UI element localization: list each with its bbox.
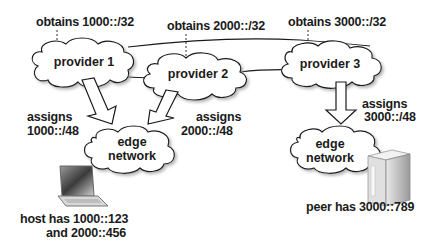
host-address-label-2: and 2000::456 <box>46 226 126 240</box>
edge-network-2-label: edge network <box>294 137 366 165</box>
edge-network-2-line2: network <box>294 151 366 165</box>
multihoming-diagram: obtains 1000::/32 obtains 2000::/32 obta… <box>0 0 442 244</box>
peer-address-label: peer has 3000::789 <box>306 200 414 214</box>
provider-3-label: provider 3 <box>292 57 368 71</box>
provider-1-assigns-prefix: 1000::/48 <box>27 124 79 138</box>
provider-2-assigns-prefix: 2000::/48 <box>181 124 233 138</box>
provider-1-obtains-label: obtains 1000::/32 <box>36 15 134 29</box>
provider-2-obtains-label: obtains 2000::/32 <box>167 19 265 33</box>
edge-network-2-line1: edge <box>294 137 366 151</box>
provider-1-label: provider 1 <box>46 55 122 69</box>
provider-3-assigns-prefix: 3000::/48 <box>364 110 416 124</box>
edge-network-1-line1: edge <box>96 135 168 149</box>
provider-3-assigns-label: assigns <box>362 97 407 111</box>
provider-3-obtains-label: obtains 3000::/32 <box>288 15 386 29</box>
provider-2-assigns-label: assigns <box>196 110 241 124</box>
server-icon <box>368 150 410 206</box>
host-address-label: host has 1000::123 <box>20 212 128 226</box>
laptop-icon <box>58 166 108 206</box>
provider-2-label: provider 2 <box>158 67 238 81</box>
edge-network-1-label: edge network <box>96 135 168 163</box>
edge-network-1-line2: network <box>96 149 168 163</box>
provider-1-assigns-label: assigns <box>27 110 72 124</box>
